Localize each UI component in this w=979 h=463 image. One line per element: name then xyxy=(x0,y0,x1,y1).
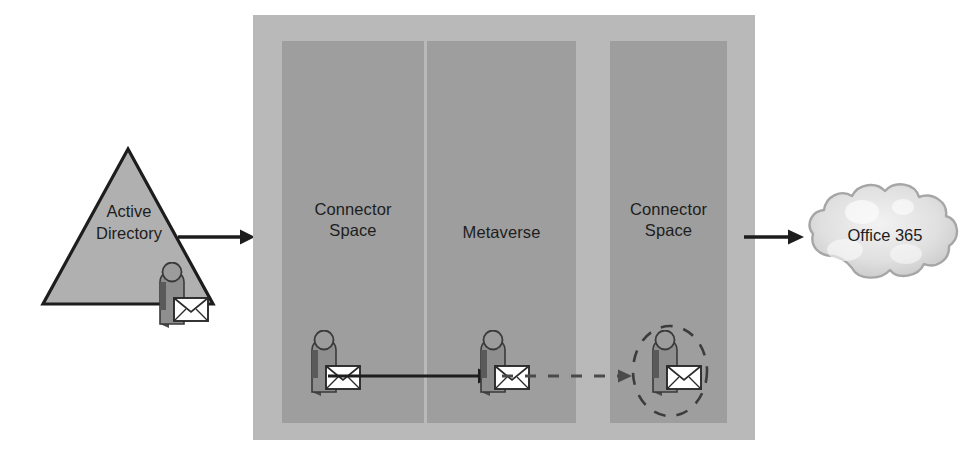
office365-label: Office 365 xyxy=(805,225,965,245)
connector-active-directory-to-connector-space xyxy=(176,222,258,252)
user-with-mail-icon-connector-space-target xyxy=(641,330,703,396)
column-label-metaverse: Metaverse xyxy=(427,222,576,243)
user-with-mail-icon-active-directory xyxy=(148,262,210,328)
connector-metaverse-to-connector-space-target xyxy=(500,362,640,390)
diagram-canvas: ActiveDirectory ConnectorSpace Metaverse… xyxy=(0,0,979,463)
column-label-connector-space-target: ConnectorSpace xyxy=(600,199,737,241)
column-label-connector-space-source: ConnectorSpace xyxy=(270,199,436,241)
